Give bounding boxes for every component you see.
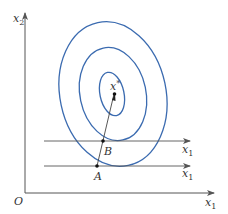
optimum-label: x* [110,79,120,93]
x-axis-label: x1 [205,196,216,211]
search-lines [44,141,190,166]
point-a [95,164,99,168]
line-b-label: x1 [182,143,193,158]
y-axis-label: x2 [13,12,24,27]
inner-contour [96,70,129,118]
point-b-label: B [103,145,112,158]
line-a-label: x1 [182,167,193,182]
point-a-label: A [93,170,102,183]
contour-diagram: x2 O x1 x1 x1 x* B A [0,0,228,214]
point-b [101,139,105,143]
origin-label: O [14,195,23,208]
